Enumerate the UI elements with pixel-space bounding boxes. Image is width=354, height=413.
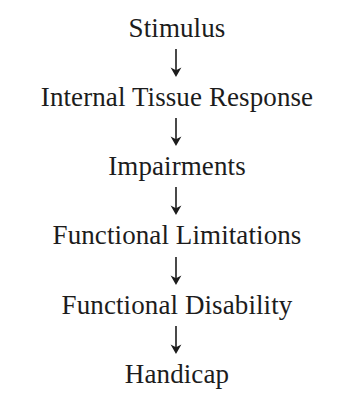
flow-connector-3	[0, 181, 353, 221]
flow-connector-2	[0, 112, 353, 152]
flow-connector-4	[0, 251, 353, 291]
arrow-down-icon	[167, 117, 185, 147]
flow-node-handicap: Handicap	[0, 360, 354, 389]
flow-diagram: Stimulus Internal Tissue Response Impair…	[0, 0, 354, 413]
flow-node-internal-tissue-response: Internal Tissue Response	[0, 83, 354, 112]
flow-connector-1	[0, 43, 353, 83]
flow-node-functional-disability: Functional Disability	[0, 291, 354, 320]
arrow-down-icon	[167, 186, 185, 216]
arrow-down-icon	[167, 256, 185, 286]
arrow-down-icon	[167, 48, 185, 78]
flow-node-functional-limitations: Functional Limitations	[0, 221, 354, 250]
flow-node-stimulus: Stimulus	[0, 14, 354, 43]
flow-connector-5	[0, 320, 353, 360]
flow-node-impairments: Impairments	[0, 152, 354, 181]
arrow-down-icon	[167, 325, 185, 355]
